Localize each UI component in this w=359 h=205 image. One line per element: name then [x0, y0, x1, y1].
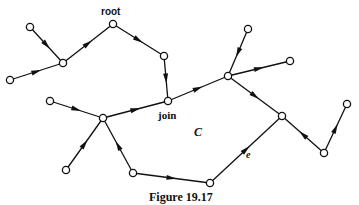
- node-n8: [129, 169, 136, 176]
- node-a: [26, 23, 33, 30]
- root-label: root: [101, 6, 121, 17]
- node-n4: [278, 112, 285, 119]
- arrow-icon: [130, 106, 141, 113]
- arrow-icon: [31, 68, 42, 76]
- arrow-icon: [163, 73, 169, 83]
- graph-diagram: root join C e Figure 19.17: [0, 0, 359, 205]
- node-n5: [320, 149, 327, 156]
- node-n7: [206, 179, 213, 186]
- arrow-icon: [133, 35, 144, 45]
- node-n3: [224, 72, 231, 79]
- arrow-icon: [331, 123, 340, 134]
- node-n6: [99, 114, 106, 121]
- edges: [10, 24, 347, 183]
- node-n2: [160, 52, 167, 59]
- node-b: [6, 76, 13, 83]
- node-t2: [286, 57, 293, 64]
- node-n1: [59, 59, 66, 66]
- edge-label: e: [246, 149, 251, 160]
- node-t3: [343, 100, 350, 107]
- arrow-icon: [234, 47, 243, 58]
- arrow-icon: [254, 65, 265, 72]
- figure-caption: Figure 19.17: [149, 190, 213, 204]
- node-l2: [62, 166, 69, 173]
- cycle-label: C: [194, 125, 203, 139]
- node-root: [109, 20, 116, 27]
- node-t1: [244, 25, 251, 32]
- join-label: join: [157, 109, 176, 121]
- arrow-icon: [71, 106, 82, 114]
- arrow-icon: [192, 84, 203, 92]
- arrow-icon: [113, 140, 122, 151]
- node-l1: [46, 97, 53, 104]
- node-join: [164, 97, 171, 104]
